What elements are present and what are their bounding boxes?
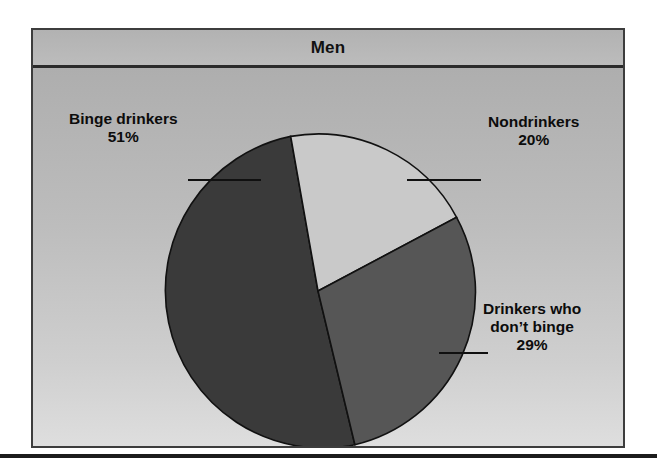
pie-label-drinkers-who-dont-binge-value: 29% [483,336,581,354]
pie-label-binge-drinkers: Binge drinkers 51% [69,110,178,146]
bottom-divider [0,454,657,458]
pie-label-binge-drinkers-name: Binge drinkers [69,110,178,128]
page-title: Men [311,38,346,58]
pie-label-nondrinkers-value: 20% [488,131,579,149]
pie-label-drinkers-who-dont-binge-name1: Drinkers who [483,300,581,318]
pie-label-nondrinkers-name: Nondrinkers [488,113,579,131]
plot-area: Binge drinkers 51% Nondrinkers 20% Drink… [33,68,623,446]
pie-label-nondrinkers: Nondrinkers 20% [488,113,579,149]
chart-figure: Men Binge drinkers 51% Nondrinkers 20% D… [31,28,625,448]
pie-label-drinkers-who-dont-binge: Drinkers who don’t binge 29% [483,300,581,354]
pie-label-binge-drinkers-value: 51% [69,128,178,146]
pie-label-drinkers-who-dont-binge-name2: don’t binge [483,318,581,336]
chart-title-bar: Men [33,30,623,68]
